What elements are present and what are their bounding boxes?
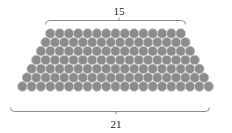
- circle: [157, 82, 167, 92]
- circle: [204, 82, 214, 92]
- circle: [73, 64, 83, 74]
- circle: [180, 37, 190, 47]
- circle: [45, 46, 55, 56]
- circle: [83, 64, 93, 74]
- circle: [111, 82, 121, 92]
- circle-row: [36, 46, 195, 56]
- circle-row: [18, 82, 214, 92]
- circle: [22, 73, 32, 83]
- circle: [87, 73, 97, 83]
- circle: [87, 55, 97, 65]
- circle: [162, 73, 172, 83]
- circle: [59, 55, 69, 65]
- circle: [143, 55, 153, 65]
- circle: [59, 37, 69, 47]
- circle: [134, 73, 144, 83]
- circle: [129, 46, 139, 56]
- circle: [45, 64, 55, 74]
- circle: [115, 55, 125, 65]
- circle: [139, 82, 149, 92]
- circle: [36, 82, 46, 92]
- circle: [78, 37, 88, 47]
- circle: [157, 46, 167, 56]
- circle: [157, 64, 167, 74]
- circle: [69, 55, 79, 65]
- circle: [139, 29, 149, 39]
- circle: [176, 29, 186, 39]
- circle: [185, 82, 195, 92]
- circle: [69, 37, 79, 47]
- circle: [115, 73, 125, 83]
- circle: [50, 55, 60, 65]
- circle-stack: [18, 29, 214, 92]
- circle: [111, 46, 121, 56]
- circle: [194, 82, 204, 92]
- circle: [120, 29, 130, 39]
- circle: [78, 55, 88, 65]
- circle: [153, 73, 163, 83]
- circle: [92, 64, 102, 74]
- circle: [185, 46, 195, 56]
- circle: [101, 64, 111, 74]
- circle: [176, 82, 186, 92]
- circle: [92, 46, 102, 56]
- circle: [143, 73, 153, 83]
- circle: [64, 29, 74, 39]
- circle: [139, 64, 149, 74]
- circle: [176, 46, 186, 56]
- circle: [176, 64, 186, 74]
- circle: [148, 46, 158, 56]
- circle: [167, 29, 177, 39]
- circle: [97, 37, 107, 47]
- bottom-measurement-bracket: [11, 108, 210, 115]
- circle-row: [41, 37, 190, 47]
- circle: [92, 82, 102, 92]
- circle: [83, 82, 93, 92]
- circle: [199, 73, 209, 83]
- bottom-length-label: 21: [111, 118, 122, 130]
- circle: [125, 73, 135, 83]
- circle: [64, 82, 74, 92]
- circle: [55, 64, 65, 74]
- circle: [41, 37, 51, 47]
- circle: [190, 55, 200, 65]
- circle: [64, 64, 74, 74]
- circle: [36, 64, 46, 74]
- circle: [190, 73, 200, 83]
- circle: [45, 29, 55, 39]
- circle: [83, 46, 93, 56]
- circle: [27, 64, 37, 74]
- circle: [125, 37, 135, 47]
- circle: [87, 37, 97, 47]
- circle: [153, 55, 163, 65]
- circle: [106, 55, 116, 65]
- circle: [106, 73, 116, 83]
- circle: [171, 37, 181, 47]
- circle: [18, 82, 28, 92]
- circle: [129, 64, 139, 74]
- circle: [125, 55, 135, 65]
- circle: [185, 64, 195, 74]
- circle: [134, 37, 144, 47]
- circle: [171, 73, 181, 83]
- circle: [73, 82, 83, 92]
- circle: [148, 64, 158, 74]
- circle: [101, 46, 111, 56]
- circle: [106, 37, 116, 47]
- circle-row: [27, 64, 204, 74]
- circle: [55, 82, 65, 92]
- circle: [41, 73, 51, 83]
- circle: [36, 46, 46, 56]
- circle: [31, 55, 41, 65]
- circle: [97, 73, 107, 83]
- circle: [92, 29, 102, 39]
- circle: [167, 46, 177, 56]
- circle: [69, 73, 79, 83]
- trapezoid-circle-figure: 15 21: [0, 0, 232, 133]
- circle: [55, 29, 65, 39]
- circle: [194, 64, 204, 74]
- circle: [162, 55, 172, 65]
- circle: [167, 82, 177, 92]
- circle: [148, 29, 158, 39]
- top-measurement-bracket: [45, 18, 185, 25]
